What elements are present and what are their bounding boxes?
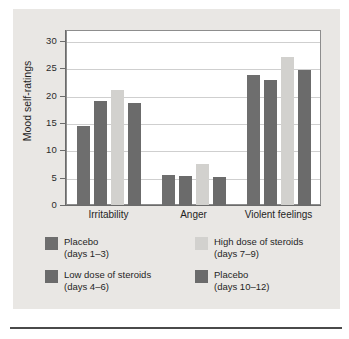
x-axis-label: Anger bbox=[151, 209, 236, 220]
legend-label: High dose of steroids(days 7–9) bbox=[214, 236, 303, 259]
y-axis-tick-label: 20 bbox=[17, 90, 57, 101]
legend-label: Placebo(days 10–12) bbox=[214, 269, 269, 292]
legend-swatch bbox=[195, 237, 208, 250]
legend-swatch bbox=[195, 270, 208, 283]
legend-label-line1: Placebo bbox=[214, 269, 248, 280]
bar bbox=[196, 164, 209, 205]
legend-item: Low dose of steroids(days 4–6) bbox=[45, 269, 151, 292]
y-axis-tick-label: 0 bbox=[17, 199, 57, 210]
y-axis-tick-label: 25 bbox=[17, 62, 57, 73]
y-axis-title: Mood self-ratings bbox=[21, 41, 33, 161]
bar bbox=[162, 175, 175, 205]
y-axis-tick-label: 30 bbox=[17, 35, 57, 46]
legend-label-line2: (days 7–9) bbox=[214, 248, 303, 260]
bar bbox=[111, 90, 124, 205]
legend-label-line1: Low dose of steroids bbox=[64, 269, 151, 280]
bar bbox=[179, 176, 192, 205]
legend-item: High dose of steroids(days 7–9) bbox=[195, 236, 303, 259]
legend-label-line2: (days 4–6) bbox=[64, 281, 151, 293]
legend: Placebo(days 1–3)High dose of steroids(d… bbox=[45, 236, 335, 298]
legend-item: Placebo(days 10–12) bbox=[195, 269, 269, 292]
legend-label-line1: Placebo bbox=[64, 236, 98, 247]
y-axis-tick-label: 5 bbox=[17, 172, 57, 183]
bar bbox=[247, 75, 260, 205]
bar bbox=[77, 126, 90, 205]
bar bbox=[264, 80, 277, 205]
bar bbox=[281, 57, 294, 205]
bottom-divider bbox=[10, 327, 342, 329]
legend-item: Placebo(days 1–3) bbox=[45, 236, 109, 259]
legend-label: Low dose of steroids(days 4–6) bbox=[64, 269, 151, 292]
bar bbox=[298, 70, 311, 205]
bar bbox=[128, 103, 141, 205]
figure: Mood self-ratings 051015202530 Irritabil… bbox=[0, 0, 349, 339]
x-axis-label: Violent feelings bbox=[236, 209, 321, 220]
legend-swatch bbox=[45, 237, 58, 250]
x-axis-line bbox=[66, 205, 321, 206]
y-axis-tick-label: 15 bbox=[17, 117, 57, 128]
y-axis-tick-label: 10 bbox=[17, 144, 57, 155]
legend-label-line2: (days 1–3) bbox=[64, 248, 109, 260]
bars-layer bbox=[66, 30, 321, 205]
legend-swatch bbox=[45, 270, 58, 283]
legend-label-line2: (days 10–12) bbox=[214, 281, 269, 293]
legend-label-line1: High dose of steroids bbox=[214, 236, 303, 247]
bar bbox=[213, 177, 226, 205]
x-axis-label: Irritability bbox=[66, 209, 151, 220]
bar bbox=[94, 101, 107, 205]
legend-label: Placebo(days 1–3) bbox=[64, 236, 109, 259]
